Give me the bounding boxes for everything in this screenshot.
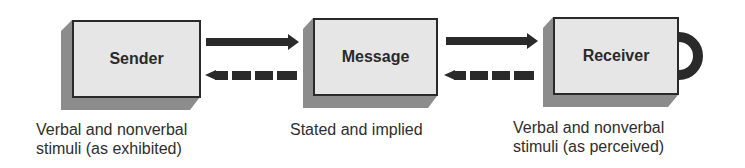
arrow-receiver-to-message [444, 70, 534, 80]
arrow-sender-to-message [206, 34, 299, 50]
arrow-message-to-sender [205, 70, 297, 80]
receiver-loop-icon [679, 37, 698, 75]
arrow-message-to-receiver [446, 33, 538, 49]
arrows-layer [0, 0, 745, 168]
